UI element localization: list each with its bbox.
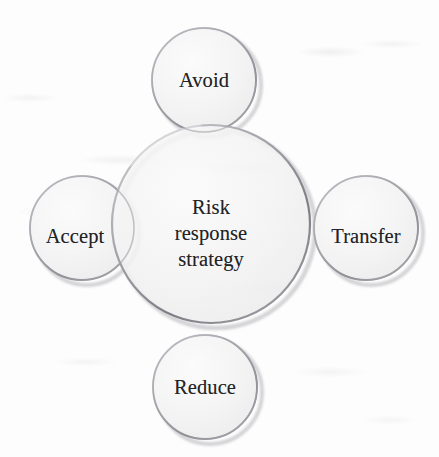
- diagram-canvas: Avoid Accept Transfer Reduce Risk respon…: [0, 0, 439, 457]
- label-avoid: Avoid: [179, 69, 229, 92]
- label-reduce: Reduce: [174, 376, 236, 399]
- label-transfer: Transfer: [331, 225, 401, 248]
- label-risk-response-strategy: Risk response strategy: [175, 194, 248, 273]
- label-accept: Accept: [46, 225, 105, 248]
